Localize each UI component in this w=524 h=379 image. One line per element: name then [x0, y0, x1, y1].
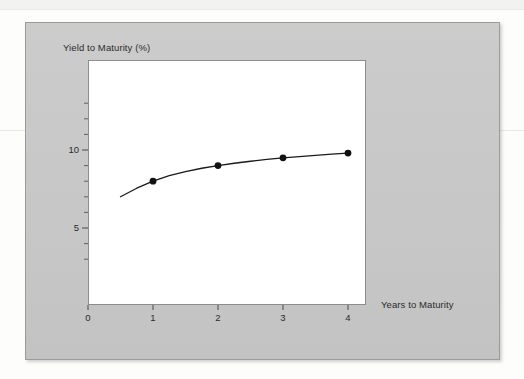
x-axis-tick-label: 3	[275, 312, 291, 323]
x-axis-tick-label: 0	[80, 312, 96, 323]
x-axis-ticks	[88, 305, 348, 310]
y-axis-tick-label: 5	[57, 222, 79, 233]
axis-ticks-canvas	[60, 50, 390, 320]
x-axis-tick-label: 4	[340, 312, 356, 323]
y-axis-ticks	[82, 103, 88, 259]
x-axis-tick-label: 2	[210, 312, 226, 323]
scan-top-band	[0, 0, 524, 10]
y-axis-tick-label: 10	[57, 144, 79, 155]
x-axis-title: Years to Maturity	[381, 299, 454, 310]
x-axis-tick-label: 1	[145, 312, 161, 323]
figure-page: Yield to Maturity (%) Years to Maturity …	[0, 0, 524, 379]
